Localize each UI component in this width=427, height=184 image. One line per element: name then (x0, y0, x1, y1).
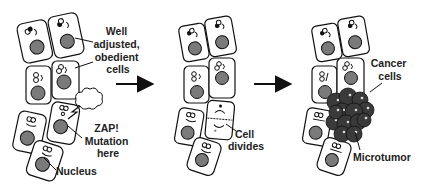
cell (184, 66, 209, 103)
cell (204, 15, 237, 57)
label-microtumor: Microtumor (353, 151, 411, 163)
panel-microtumor: Cancer cells Microtumor (302, 15, 411, 177)
cancer-cell-dot (367, 107, 370, 110)
cell (337, 15, 370, 57)
label-cancer-cells: Cancer cells (371, 57, 410, 82)
cancer-cell-dot (349, 94, 352, 97)
label-nucleus: Nucleus (56, 165, 97, 177)
dividing-cell (205, 100, 235, 140)
cancer-cell-dot (365, 117, 368, 120)
mutated-cell (46, 101, 81, 145)
cancer-cell (329, 105, 343, 119)
tumor-progression-diagram: Well adjusted, obedient cells ZAP! Mutat… (0, 0, 427, 184)
cell (209, 58, 235, 98)
cancer-cell-dot (347, 121, 350, 124)
cell (26, 66, 51, 104)
microtumor-cluster (326, 88, 374, 142)
panel-cell-division: Cell divides (174, 15, 264, 177)
cancer-cell-dot (343, 131, 346, 134)
cancer-cell (346, 126, 362, 142)
cell (52, 61, 79, 99)
leader-line (370, 83, 382, 92)
panel-normal-cells: Well adjusted, obedient cells ZAP! Mutat… (12, 12, 143, 183)
label-mutation: ZAP! Mutation here (85, 122, 132, 159)
label-cell-divides: Cell divides (228, 128, 264, 152)
label-obedient-cells: Well adjusted, obedient cells (93, 25, 142, 75)
cancer-cell-dot (361, 97, 364, 100)
cancer-cell-dot (355, 109, 358, 112)
cancer-cell (357, 113, 371, 127)
cancer-cell-dot (337, 109, 340, 112)
